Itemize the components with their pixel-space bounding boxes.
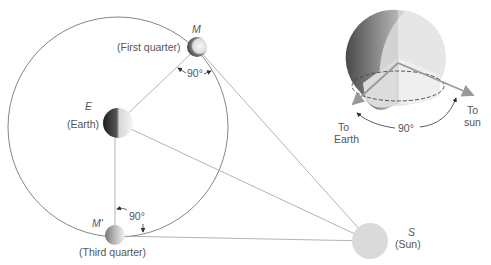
inset-angle-arc-right (420, 98, 456, 127)
moon-first-quarter (187, 37, 207, 57)
sun-label: (Sun) (395, 238, 421, 250)
moon-first-label: (First quarter) (117, 41, 181, 53)
inset-to-sun-1: To (467, 104, 478, 116)
earth-label: (Earth) (67, 118, 99, 130)
moon-third-quarter (105, 225, 125, 245)
inset-to-sun-2: sun (464, 116, 481, 128)
connecting-lines (115, 48, 370, 241)
moon-third-symbol: M' (92, 217, 104, 229)
inset-angle-label: 90° (398, 122, 414, 134)
sun-symbol: S (408, 226, 415, 238)
moon-first-symbol: M (192, 23, 201, 35)
earth-symbol: E (85, 100, 93, 112)
inset-to-earth-2: Earth (334, 133, 359, 145)
angle-arrow-first-right (204, 71, 211, 74)
angle-arrow-third-top (117, 208, 127, 210)
angle-third-label: 90° (129, 210, 145, 222)
inset-to-earth-1: To (338, 121, 349, 133)
angle-arrow-first-left (178, 68, 186, 73)
inset-moon-sphere (346, 10, 473, 110)
moon-third-label: (Third quarter) (79, 246, 146, 258)
inset-angle-arc (357, 113, 395, 128)
sun (352, 223, 388, 259)
lunar-phase-diagram: S (Sun) E (Earth) M (First quarter) 90° … (0, 0, 491, 265)
earth (103, 108, 133, 138)
angle-first-label: 90° (187, 67, 203, 79)
